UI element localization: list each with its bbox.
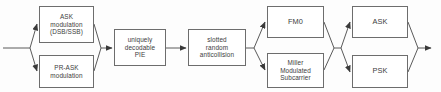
connector-to-fm0	[254, 22, 265, 48]
connector-to-ask-modulation	[30, 24, 37, 48]
node-pr-ask-modulation: PR-ASK modulation	[39, 55, 94, 88]
connector-from-pr-ask-modulation	[94, 48, 101, 71]
node-label-psk: PSK	[353, 67, 407, 76]
node-ask: ASK	[352, 6, 408, 38]
connector-from-fm0	[324, 22, 334, 48]
node-label-pr-ask-modulation: PR-ASK modulation	[40, 64, 93, 79]
connector-from-psk	[408, 48, 418, 72]
connector-to-miller	[254, 48, 265, 70]
connector-from-ask	[408, 22, 418, 48]
connector-to-psk	[341, 48, 350, 72]
node-ask-modulation: ASK modulation (DSB/SSB)	[39, 6, 94, 43]
connector-to-pr-ask-modulation	[30, 48, 37, 71]
node-slotted-random-anticollision: slotted random anticollision	[188, 29, 246, 66]
connector-from-miller	[324, 48, 334, 70]
node-label-uniquely-decodable-pie: uniquely decodable PIE	[115, 36, 165, 59]
node-miller-modulated-subcarrier: Miller Modulated Subcarrier	[267, 53, 324, 88]
node-label-miller-modulated-subcarrier: Miller Modulated Subcarrier	[268, 59, 323, 82]
node-label-slotted-random-anticollision: slotted random anticollision	[189, 36, 245, 59]
connector-from-ask-modulation	[94, 24, 101, 48]
node-label-ask-modulation: ASK modulation (DSB/SSB)	[40, 13, 93, 36]
node-psk: PSK	[352, 55, 408, 88]
node-fm0: FM0	[267, 6, 324, 38]
node-label-ask: ASK	[353, 18, 407, 27]
node-label-fm0: FM0	[268, 18, 323, 27]
block-diagram: ASK modulation (DSB/SSB)PR-ASK modulatio…	[0, 0, 441, 92]
connector-to-ask	[341, 22, 350, 48]
node-uniquely-decodable-pie: uniquely decodable PIE	[114, 29, 166, 66]
